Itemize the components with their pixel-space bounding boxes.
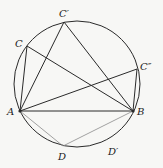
label-b: B xyxy=(136,106,144,117)
point-b xyxy=(131,109,134,112)
segment-c1-b xyxy=(64,22,133,111)
label-d: D xyxy=(57,151,66,162)
point-labels: A B C C′ C″ D D′ xyxy=(6,8,152,162)
segment-a-d xyxy=(20,111,63,146)
segment-c-b xyxy=(27,46,133,111)
segment-d-b xyxy=(63,111,133,146)
label-a: A xyxy=(6,106,14,117)
inscribed-angle-diagram: A B C C′ C″ D D′ xyxy=(0,0,163,168)
label-d-prime: D′ xyxy=(107,146,119,157)
label-c-double-prime: C″ xyxy=(140,61,152,72)
chords xyxy=(20,22,137,146)
label-c-prime: C′ xyxy=(59,8,70,19)
point-a xyxy=(18,109,21,112)
label-c: C xyxy=(15,38,23,49)
